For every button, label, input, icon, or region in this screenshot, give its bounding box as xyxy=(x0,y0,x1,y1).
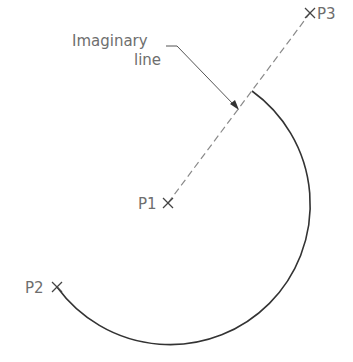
p3-cross-marker xyxy=(305,8,315,18)
p1-label: P1 xyxy=(138,195,157,213)
p2-label: P2 xyxy=(25,279,44,297)
annotation-line1: Imaginary xyxy=(72,32,148,50)
arc xyxy=(57,91,310,345)
annotation-line2: line xyxy=(134,51,161,69)
p3-label: P3 xyxy=(317,5,336,23)
diagram-canvas: P1 P2 P3 Imaginary line xyxy=(0,0,353,362)
p2-cross-marker xyxy=(52,282,62,292)
imaginary-line xyxy=(168,13,310,203)
leader-line xyxy=(166,46,234,105)
leader-arrowhead xyxy=(230,100,239,110)
p1-cross-marker xyxy=(163,198,173,208)
